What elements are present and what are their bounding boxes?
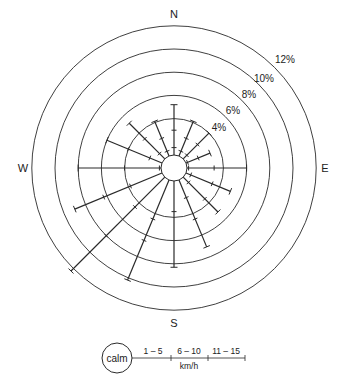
ring-label-10: 10% <box>254 73 274 84</box>
arm-n <box>171 105 178 155</box>
arm-nne <box>179 120 197 156</box>
legend-unit: km/h <box>180 361 199 371</box>
legend: calm 1 – 5 6 – 10 11 – 15 km/h <box>102 343 245 373</box>
ring-label-4: 4% <box>212 122 227 133</box>
compass-label-s: S <box>170 317 177 329</box>
wind-rose-chart: N S W E 4% 6% 8% 10% 12% calm 1 – 5 6 – … <box>0 0 340 387</box>
arm-wnw <box>106 137 162 163</box>
legend-calm-label: calm <box>106 353 127 364</box>
ring-label-6: 6% <box>226 105 241 116</box>
arm-nnw <box>151 120 169 156</box>
legend-speed-class-1: 1 – 5 <box>144 346 163 356</box>
arm-e <box>187 165 247 172</box>
arm-w <box>78 165 161 172</box>
arm-ese <box>186 173 232 195</box>
legend-speed-class-3: 11 – 15 <box>212 346 240 356</box>
legend-speed-class-2: 6 – 10 <box>177 346 201 356</box>
compass-label-w: W <box>18 162 29 174</box>
arm-nw <box>127 121 165 159</box>
calm-circle <box>161 155 187 181</box>
compass-label-e: E <box>321 162 328 174</box>
ring-label-8: 8% <box>242 89 257 100</box>
compass-label-n: N <box>170 8 178 20</box>
ring-label-12: 12% <box>275 54 295 65</box>
arm-s <box>171 181 178 267</box>
